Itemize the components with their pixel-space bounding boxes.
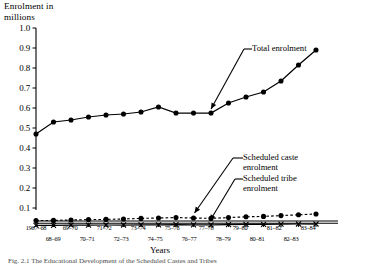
data-point xyxy=(278,213,283,218)
data-point xyxy=(296,212,301,217)
data-point xyxy=(208,110,213,115)
data-point xyxy=(261,214,266,219)
figure-caption: Fig. 2.1 The Educational Development of … xyxy=(8,257,217,265)
data-point xyxy=(296,62,301,67)
data-point xyxy=(86,217,91,222)
data-point xyxy=(261,89,266,94)
data-point xyxy=(191,215,196,220)
data-point xyxy=(226,100,231,105)
data-point xyxy=(313,47,318,52)
data-point xyxy=(121,216,126,221)
series-line xyxy=(36,50,316,134)
data-point xyxy=(33,131,38,136)
series-1 xyxy=(33,47,318,136)
data-point xyxy=(68,117,73,122)
data-point xyxy=(191,110,196,115)
chart-figure: Enrolment in millions 1.0 0.9 0.8 0.7 0.… xyxy=(0,0,367,265)
data-point xyxy=(138,109,143,114)
data-point xyxy=(68,217,73,222)
data-point xyxy=(156,104,161,109)
data-point xyxy=(243,94,248,99)
arrow-scheduled-caste xyxy=(195,158,234,213)
data-point xyxy=(173,110,178,115)
data-point xyxy=(103,112,108,117)
data-point xyxy=(313,211,318,216)
data-point xyxy=(156,215,161,220)
data-point xyxy=(173,215,178,220)
data-point xyxy=(51,218,56,223)
data-point xyxy=(86,114,91,119)
data-point xyxy=(278,78,283,83)
data-point xyxy=(138,216,143,221)
data-point xyxy=(243,214,248,219)
data-point xyxy=(121,111,126,116)
data-point xyxy=(226,215,231,220)
chart-plot-area xyxy=(0,0,367,265)
data-point xyxy=(51,119,56,124)
data-point xyxy=(103,217,108,222)
data-point xyxy=(33,218,38,223)
